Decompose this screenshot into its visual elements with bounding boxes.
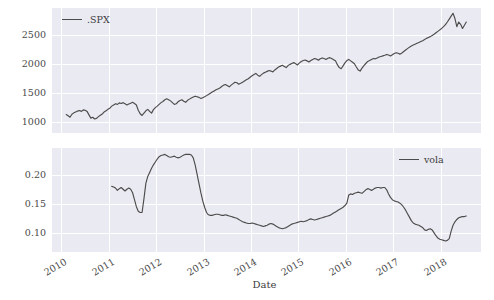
vola-data-line [112, 154, 467, 241]
spx-plot-svg [52, 8, 481, 133]
x-axis-tick-label: 2017 [371, 256, 401, 280]
spx-ytick-label: 2000 [2, 59, 46, 69]
figure-canvas: .SPX 2500 2000 1500 1000 vola 0.20 0.15 … [0, 0, 494, 300]
vola-ytick-label: 0.10 [2, 228, 46, 238]
legend-swatch-vola [399, 159, 419, 160]
spx-data-line [66, 13, 466, 119]
vola-ytick-label: 0.20 [2, 170, 46, 180]
vola-ytick-label: 0.15 [2, 199, 46, 209]
x-axis-label: Date [253, 279, 277, 290]
legend-spx[interactable]: .SPX [62, 14, 110, 25]
legend-vola[interactable]: vola [399, 154, 444, 165]
spx-ytick-label: 2500 [2, 30, 46, 40]
legend-label-vola: vola [424, 154, 444, 165]
x-axis-tick-label: 2011 [87, 256, 117, 280]
x-axis-tick-label: 2012 [134, 256, 164, 280]
x-axis-tick-label: 2013 [181, 256, 211, 280]
x-axis-tick-label: 2016 [324, 256, 354, 280]
spx-ytick-label: 1500 [2, 88, 46, 98]
x-axis-tick-label: 2018 [418, 256, 448, 280]
legend-label-spx: .SPX [87, 14, 110, 25]
spx-ytick-label: 1000 [2, 117, 46, 127]
x-axis-tick-label: 2010 [39, 256, 69, 280]
spx-gridlines [52, 8, 481, 133]
legend-swatch-spx [62, 19, 82, 20]
chart-panel-spx [52, 8, 481, 133]
x-axis-tick-label: 2014 [229, 256, 259, 280]
x-axis-tick-label: 2015 [276, 256, 306, 280]
